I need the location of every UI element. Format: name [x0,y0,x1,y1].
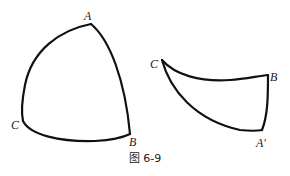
label-b-right: B [270,70,278,84]
label-c-right: C [150,57,159,71]
left-spherical-triangle: A C B [11,9,137,149]
label-a-prime: A′ [255,136,266,150]
arc-b-aprime [262,75,268,130]
figure-canvas: A C B C B A′ 图 6-9 [0,0,290,176]
arc-a-c [22,24,91,121]
arc-c-b [23,121,130,141]
arc-c-b-right [162,60,268,80]
arc-a-b [91,24,130,134]
right-spherical-triangle: C B A′ [150,57,278,150]
label-a: A [83,9,92,23]
label-b: B [129,135,137,149]
figure-caption: 图 6-9 [129,152,161,165]
label-c: C [11,118,20,132]
